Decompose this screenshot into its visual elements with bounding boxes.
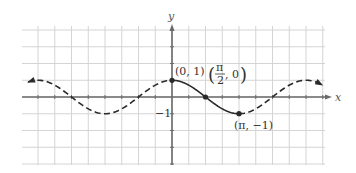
axes: [22, 24, 332, 165]
label-point-pi-half-0: ( π 2 , 0 ): [208, 61, 247, 87]
y-axis-label: y: [167, 10, 175, 23]
left-paren: (: [208, 64, 215, 85]
label-point-0-1: (0, 1): [175, 65, 205, 78]
left-arrowhead-icon: [27, 77, 35, 83]
y-tick-label-neg1: −1: [155, 107, 171, 120]
point-pi-neg1: [236, 111, 241, 116]
x-axis-arrow-icon: [325, 95, 332, 100]
pi-numerator: π: [216, 61, 223, 74]
cosine-graph: y x −1 (0, 1) ( π 2 , 0 ) (π, −1): [0, 0, 356, 173]
comma-zero: , 0: [225, 68, 239, 81]
x-axis-label: x: [335, 91, 342, 104]
denominator: 2: [217, 74, 224, 87]
right-paren: ): [240, 64, 247, 85]
point-pi-half-0: [203, 94, 208, 99]
label-point-pi-neg1: (π, −1): [234, 119, 273, 132]
point-0-1: [169, 78, 174, 83]
